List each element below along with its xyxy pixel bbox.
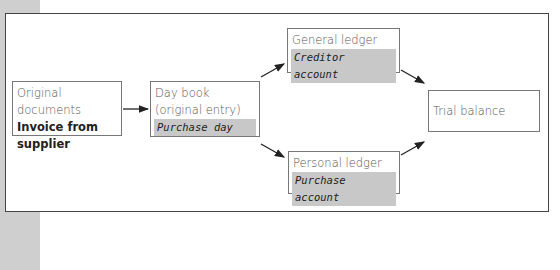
node-title: Personal ledger	[293, 155, 395, 172]
node-detail: Invoice from	[17, 119, 117, 136]
node-highlight: Creditor account	[291, 49, 396, 83]
node-subtitle: (original entry)	[155, 102, 255, 119]
node-day-book: Day book (original entry) Purchase day	[150, 81, 260, 137]
node-highlight: Purchase account	[292, 172, 396, 206]
node-general-ledger: General ledger Creditor account	[287, 28, 400, 73]
node-personal-ledger: Personal ledger Purchase account	[288, 151, 400, 194]
node-title: Trial balance	[433, 103, 535, 120]
node-highlight: Purchase day	[154, 119, 256, 136]
node-trial-balance: Trial balance	[428, 90, 540, 132]
node-title: Day book	[155, 85, 255, 102]
node-title: General ledger	[292, 32, 395, 49]
node-title: Original documents	[17, 85, 117, 119]
node-original-documents: Original documents Invoice from supplier	[12, 81, 122, 136]
node-detail: supplier	[17, 136, 117, 153]
